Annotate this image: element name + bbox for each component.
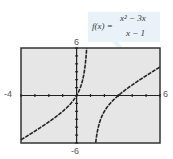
x-min-label: -4 [4,89,12,99]
y-min-label: -6 [71,146,79,156]
y-max-label: 6 [74,37,79,47]
x-max-label: 6 [163,89,168,99]
function-plot [0,0,173,159]
